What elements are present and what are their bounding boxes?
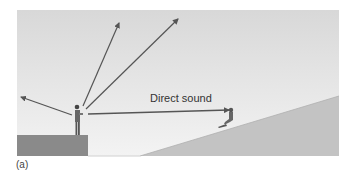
figure-caption: (a) [16, 159, 28, 170]
diagram-canvas [0, 0, 354, 179]
direct-sound-label: Direct sound [150, 92, 212, 104]
stage-platform [17, 135, 88, 156]
sound-diagram: Direct sound (a) [0, 0, 354, 179]
